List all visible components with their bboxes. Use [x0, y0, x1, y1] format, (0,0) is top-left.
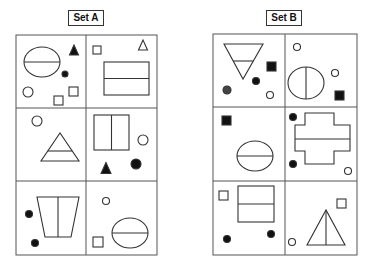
filled-triangle-icon — [70, 45, 79, 55]
outline-square-icon — [69, 87, 78, 96]
outline-square-icon — [337, 199, 346, 208]
filled-circle-icon — [26, 211, 33, 218]
filled-square-icon — [222, 116, 231, 125]
outline-circle-icon — [294, 44, 301, 51]
sets-diagram — [0, 0, 368, 266]
outline-triangle-icon — [139, 40, 148, 50]
outline-square-icon — [219, 191, 228, 200]
filled-circle-icon — [253, 78, 260, 85]
filled-circle-icon — [32, 240, 39, 247]
outline-square-icon — [93, 46, 101, 54]
filled-circle-icon — [223, 86, 231, 94]
filled-triangle-icon — [101, 163, 111, 174]
filled-circle-icon — [268, 231, 275, 238]
outline-circle-icon — [23, 87, 33, 97]
outline-circle-icon — [103, 198, 110, 205]
filled-circle-icon — [290, 161, 297, 168]
outline-circle-icon — [289, 239, 296, 246]
filled-square-icon — [335, 91, 344, 100]
filled-circle-icon — [224, 236, 231, 243]
outline-circle-icon — [267, 92, 274, 99]
filled-circle-icon — [62, 71, 68, 77]
filled-circle-icon — [131, 159, 141, 169]
outline-circle-icon — [138, 135, 148, 145]
outline-square-icon — [54, 96, 63, 105]
filled-circle-icon — [290, 114, 297, 121]
outline-circle-icon — [332, 70, 339, 77]
outline-circle-icon — [345, 168, 352, 175]
divided-triangle — [41, 133, 79, 161]
outline-square-icon — [93, 237, 103, 247]
filled-square-icon — [267, 62, 276, 71]
outline-circle-icon — [32, 116, 42, 126]
